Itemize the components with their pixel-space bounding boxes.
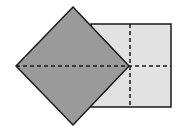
- geometry-diagram: [0, 0, 181, 131]
